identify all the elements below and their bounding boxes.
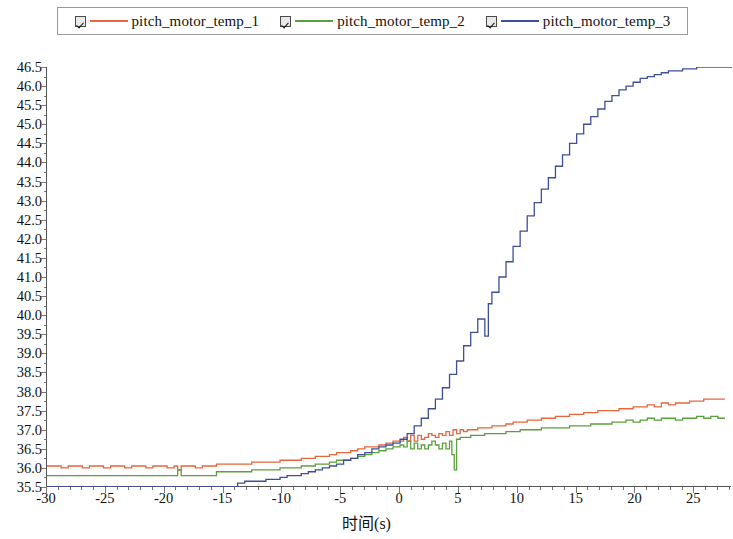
x-tick-label: -25 — [95, 490, 114, 507]
legend-color-swatch-2 — [295, 20, 333, 22]
y-tick-label: 40.5 — [17, 288, 42, 305]
chart-legend: pitch_motor_temp_1 pitch_motor_temp_2 pi… — [57, 7, 688, 35]
x-tick-label: 10 — [510, 490, 525, 507]
legend-checkbox-icon-1[interactable] — [75, 16, 86, 27]
y-tick-label: 36.5 — [17, 440, 42, 457]
legend-label-2: pitch_motor_temp_2 — [337, 13, 465, 30]
y-tick-label: 37.5 — [17, 402, 42, 419]
y-tick-label: 39.0 — [17, 345, 42, 362]
legend-checkbox-icon-2[interactable] — [280, 16, 291, 27]
series-line-1 — [47, 399, 725, 470]
y-tick-label: 36.0 — [17, 459, 42, 476]
x-tick-label: -10 — [272, 490, 291, 507]
y-tick-label: 43.0 — [17, 192, 42, 209]
plot-area — [46, 67, 731, 487]
y-tick-label: 38.0 — [17, 383, 42, 400]
x-tick-label: -15 — [213, 490, 232, 507]
y-tick-label: 43.5 — [17, 173, 42, 190]
x-tick-label: -30 — [36, 490, 55, 507]
x-tick-label: 15 — [568, 490, 583, 507]
series-line-3 — [47, 67, 732, 487]
y-tick-label: 45.0 — [17, 116, 42, 133]
y-tick-label: 41.0 — [17, 269, 42, 286]
x-tick-label: 0 — [395, 490, 402, 507]
legend-color-swatch-1 — [90, 20, 128, 22]
y-tick-label: 42.5 — [17, 211, 42, 228]
y-tick-label: 38.5 — [17, 364, 42, 381]
y-tick-label: 44.5 — [17, 135, 42, 152]
legend-item-pitch-motor-temp-1[interactable]: pitch_motor_temp_1 — [75, 13, 260, 30]
y-tick-label: 45.5 — [17, 97, 42, 114]
legend-item-pitch-motor-temp-2[interactable]: pitch_motor_temp_2 — [280, 13, 465, 30]
legend-label-3: pitch_motor_temp_3 — [543, 13, 671, 30]
legend-label-1: pitch_motor_temp_1 — [132, 13, 260, 30]
x-tick-label: -20 — [154, 490, 173, 507]
y-tick-label: 41.5 — [17, 249, 42, 266]
x-tick-label: 20 — [627, 490, 642, 507]
y-tick-label: 46.5 — [17, 59, 42, 76]
y-tick-label: 42.0 — [17, 230, 42, 247]
y-tick-label: 46.0 — [17, 78, 42, 95]
x-axis-tick-labels: -30-25-20-15-10-50510152025 — [46, 490, 731, 512]
y-tick-label: 37.0 — [17, 421, 42, 438]
x-axis-title: 时间(s) — [0, 510, 733, 534]
y-tick-label: 40.0 — [17, 307, 42, 324]
y-axis-tick-labels: 35.536.036.537.037.538.038.539.039.540.0… — [0, 67, 42, 487]
legend-color-swatch-3 — [501, 20, 539, 22]
x-tick-label: 25 — [686, 490, 701, 507]
chart-page: pitch_motor_temp_1 pitch_motor_temp_2 pi… — [0, 0, 733, 539]
legend-checkbox-icon-3[interactable] — [486, 16, 497, 27]
y-tick-label: 44.0 — [17, 154, 42, 171]
series-canvas — [47, 67, 732, 487]
x-tick-label: -5 — [334, 490, 346, 507]
legend-item-pitch-motor-temp-3[interactable]: pitch_motor_temp_3 — [486, 13, 671, 30]
x-tick-label: 5 — [454, 490, 461, 507]
y-tick-label: 39.5 — [17, 326, 42, 343]
